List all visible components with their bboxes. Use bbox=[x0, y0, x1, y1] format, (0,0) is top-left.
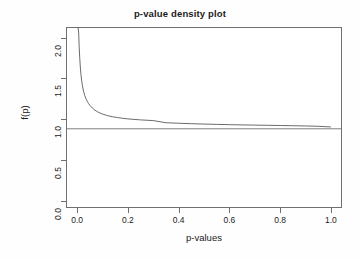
x-axis-tick bbox=[77, 208, 78, 213]
y-axis-tick-label: 1.5 bbox=[53, 78, 63, 104]
density-curve bbox=[78, 28, 331, 127]
y-axis-tick-label: 2.0 bbox=[53, 38, 63, 64]
plot-canvas bbox=[67, 28, 341, 207]
x-axis-tick bbox=[128, 208, 129, 213]
x-axis-tick-label: 0.8 bbox=[265, 215, 295, 225]
x-axis-tick bbox=[331, 208, 332, 213]
y-axis-tick-label: 1.0 bbox=[53, 119, 63, 145]
x-axis-title: p-values bbox=[66, 232, 342, 243]
x-axis-tick bbox=[280, 208, 281, 213]
x-axis-tick-label: 0.6 bbox=[214, 215, 244, 225]
x-axis-tick-label: 0.2 bbox=[113, 215, 143, 225]
chart-title: p-value density plot bbox=[0, 8, 360, 19]
x-axis-tick-label: 0.0 bbox=[62, 215, 92, 225]
plot-area bbox=[66, 27, 342, 208]
y-axis-title: f(p) bbox=[19, 105, 30, 119]
x-axis-tick bbox=[179, 208, 180, 213]
x-axis-tick-label: 0.4 bbox=[164, 215, 194, 225]
x-axis-tick bbox=[229, 208, 230, 213]
x-axis-tick-label: 1.0 bbox=[316, 215, 346, 225]
y-axis-tick-label: 0.5 bbox=[53, 160, 63, 186]
chart-container: p-value density plot f(p) p-values 0.00.… bbox=[0, 0, 360, 259]
